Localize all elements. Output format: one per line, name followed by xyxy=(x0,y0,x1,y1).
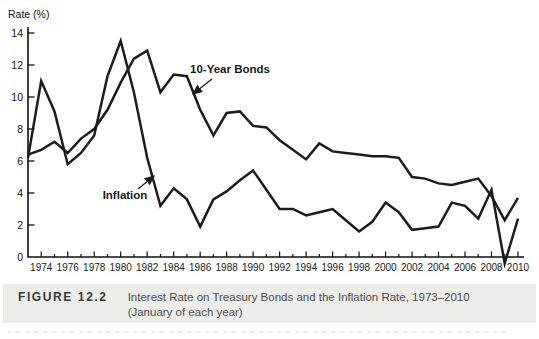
cutoff-text-remnant xyxy=(8,331,508,333)
x-tick-label: 1992 xyxy=(268,262,291,273)
x-tick-label: 2010 xyxy=(507,262,530,273)
y-tick-label: 8 xyxy=(17,123,23,135)
y-tick-label: 4 xyxy=(17,187,23,199)
x-tick-label: 1982 xyxy=(136,262,159,273)
x-tick-label: 1984 xyxy=(163,262,186,273)
y-tick-label: 6 xyxy=(17,155,23,167)
x-tick-label: 2006 xyxy=(454,262,477,273)
y-axis-title: Rate (%) xyxy=(8,8,49,20)
x-tick-label: 2000 xyxy=(374,262,397,273)
y-tick-label: 2 xyxy=(17,219,23,231)
caption-line-2: (January of each year) xyxy=(128,305,470,320)
x-tick-label: 1978 xyxy=(83,262,106,273)
bonds-annotation-arrow xyxy=(193,79,212,94)
x-tick-label: 2004 xyxy=(427,262,450,273)
x-tick-label: 1976 xyxy=(57,262,80,273)
caption-line-1: Interest Rate on Treasury Bonds and the … xyxy=(128,290,470,305)
caption-text: Interest Rate on Treasury Bonds and the … xyxy=(128,290,470,319)
x-tick-label: 1996 xyxy=(321,262,344,273)
bonds-line xyxy=(28,51,518,221)
x-tick-label: 1990 xyxy=(242,262,265,273)
x-tick-label: 1980 xyxy=(110,262,133,273)
axes xyxy=(28,27,524,257)
y-tick-label: 0 xyxy=(17,251,23,263)
x-tick-label: 1994 xyxy=(295,262,318,273)
y-tick-label: 10 xyxy=(11,91,23,103)
x-tick-label: 1986 xyxy=(189,262,212,273)
x-tick-label: 1974 xyxy=(30,262,53,273)
x-tick-label: 2008 xyxy=(480,262,503,273)
inflation-annotation-arrow xyxy=(138,176,154,189)
x-tick-label: 1998 xyxy=(348,262,371,273)
inflation-annotation-label: Inflation xyxy=(103,189,148,201)
figure-caption: FIGURE 12.2 Interest Rate on Treasury Bo… xyxy=(3,284,536,323)
line-chart: 0246810121419741976197819801982198419861… xyxy=(0,0,539,284)
x-tick-label: 2002 xyxy=(401,262,424,273)
x-tick-label: 1988 xyxy=(216,262,239,273)
inflation-line xyxy=(28,41,518,263)
figure-12-2: 0246810121419741976197819801982198419861… xyxy=(0,0,539,339)
y-tick-label: 14 xyxy=(11,27,23,39)
figure-number: FIGURE 12.2 xyxy=(18,290,108,304)
bonds-annotation-label: 10-Year Bonds xyxy=(190,63,270,75)
y-tick-label: 12 xyxy=(11,59,23,71)
